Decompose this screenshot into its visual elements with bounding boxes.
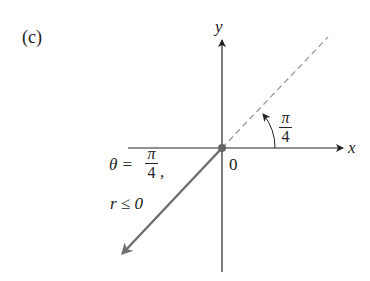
polar-diagram: [0, 0, 370, 281]
origin-label: 0: [229, 156, 238, 173]
dashed-ray: [222, 37, 328, 148]
angle-arc: [263, 114, 275, 148]
angle-denominator: 4: [282, 129, 290, 145]
theta-denominator: 4: [148, 165, 156, 181]
angle-label: π 4: [279, 110, 292, 145]
panel-label: (c): [22, 28, 42, 46]
origin-dot: [218, 144, 226, 152]
angle-numerator: π: [281, 110, 289, 126]
r-condition: r ≤ 0: [110, 195, 143, 212]
theta-fraction: π 4: [145, 146, 158, 181]
theta-prefix: θ =: [109, 156, 133, 173]
theta-numerator: π: [147, 146, 155, 162]
x-axis-label: x: [348, 139, 356, 156]
y-axis-label: y: [215, 18, 223, 35]
comma: ,: [160, 163, 164, 180]
